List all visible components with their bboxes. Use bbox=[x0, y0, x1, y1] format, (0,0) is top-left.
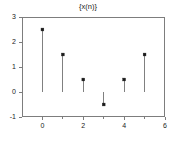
y-axis-tick-label: 3 bbox=[2, 13, 16, 20]
data-point-marker bbox=[61, 53, 64, 56]
y-axis-tick-label: -1 bbox=[2, 113, 16, 120]
y-axis-tick-label: 2 bbox=[2, 38, 16, 45]
data-point-marker bbox=[82, 78, 85, 81]
data-point-marker bbox=[143, 53, 146, 56]
stem-plot-figure: {x(n)} -101230246 bbox=[0, 0, 176, 141]
x-axis-tick-label: 4 bbox=[117, 122, 131, 129]
data-point-marker bbox=[102, 103, 105, 106]
plot-canvas bbox=[0, 0, 176, 141]
x-axis-tick-label: 6 bbox=[158, 122, 172, 129]
data-point-marker bbox=[123, 78, 126, 81]
y-axis-tick-label: 1 bbox=[2, 63, 16, 70]
x-axis-tick-label: 0 bbox=[35, 122, 49, 129]
y-axis-tick-label: 0 bbox=[2, 88, 16, 95]
data-point-marker bbox=[41, 28, 44, 31]
x-axis-tick-label: 2 bbox=[76, 122, 90, 129]
